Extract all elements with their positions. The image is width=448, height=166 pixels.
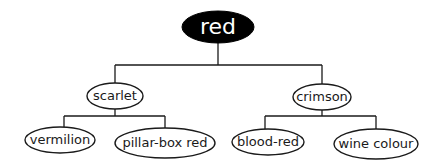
- node-wine-colour: wine colour: [334, 129, 418, 159]
- node-label-scarlet: scarlet: [93, 88, 137, 103]
- node-label-blood-red: blood-red: [237, 134, 299, 149]
- node-label-vermilion: vermilion: [30, 132, 91, 147]
- node-label-pillar-box-red: pillar-box red: [122, 135, 207, 150]
- edges-scarlet: [64, 109, 165, 128]
- edges-root: [115, 43, 322, 84]
- node-label-crimson: crimson: [296, 89, 348, 104]
- node-pillar-box-red: pillar-box red: [115, 128, 215, 158]
- node-scarlet: scarlet: [87, 83, 143, 109]
- node-label-red: red: [200, 14, 236, 39]
- hyponymy-tree-diagram: red scarlet crimson vermilion pillar-box…: [0, 0, 448, 166]
- node-blood-red: blood-red: [232, 129, 304, 155]
- edges-crimson: [265, 110, 376, 129]
- node-vermilion: vermilion: [25, 127, 95, 153]
- node-red: red: [182, 11, 254, 43]
- node-crimson: crimson: [293, 84, 351, 110]
- node-label-wine-colour: wine colour: [339, 136, 415, 151]
